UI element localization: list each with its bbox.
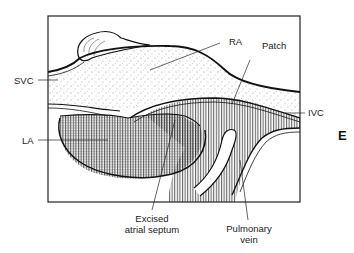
panel-letter: E: [338, 128, 347, 143]
label-la: LA: [22, 135, 34, 146]
label-patch: Patch: [262, 40, 286, 51]
label-excised-septum: Excised atrial septum: [112, 213, 192, 235]
label-pulmonary-vein: Pulmonary vein: [214, 223, 284, 245]
label-svc: SVC: [14, 75, 34, 86]
label-ra: RA: [229, 36, 242, 47]
label-ivc: IVC: [308, 107, 324, 118]
